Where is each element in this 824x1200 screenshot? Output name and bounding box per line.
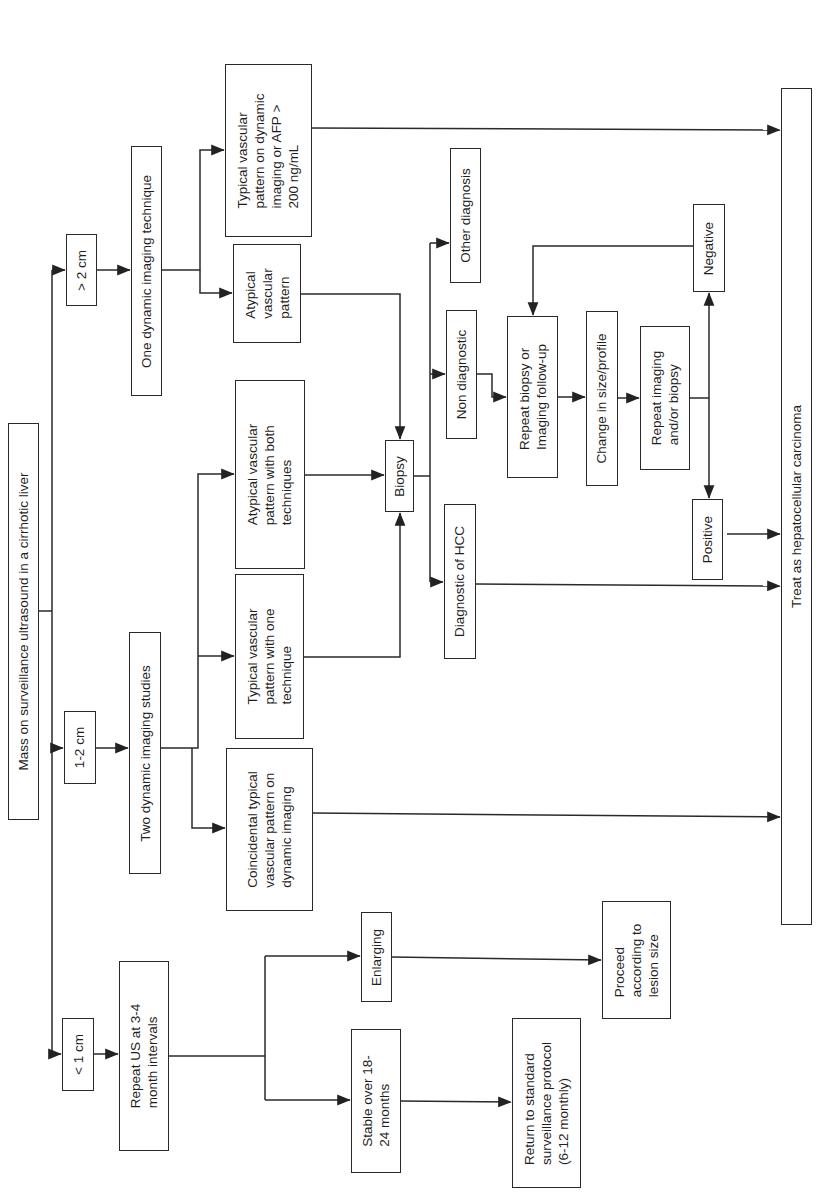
node-repeat-biopsy-or-imaging: Repeat biopsy or Imaging follow-up bbox=[507, 316, 558, 478]
node-coincidental-typical: Coincidental typical vascular pattern on… bbox=[226, 748, 313, 911]
node-label: 1-2 cm bbox=[72, 727, 89, 768]
node-diagnostic-of-hcc: Diagnostic of HCC bbox=[444, 504, 476, 659]
node-label: Enlarging bbox=[368, 928, 385, 985]
node-size-gt-2cm: > 2 cm bbox=[66, 234, 97, 306]
node-other-diagnosis: Other diagnosis bbox=[450, 148, 481, 283]
node-negative: Negative bbox=[693, 204, 725, 292]
node-size-lt-1cm: < 1 cm bbox=[62, 1018, 94, 1091]
node-label: Biopsy bbox=[391, 456, 408, 497]
node-label: Atypical vascular pattern bbox=[242, 268, 293, 318]
node-typical-one-technique: Typical vascular pattern with one techni… bbox=[235, 574, 304, 739]
node-label: Repeat US at 3-4 month intervals bbox=[127, 1004, 161, 1108]
node-label: Diagnostic of HCC bbox=[452, 526, 469, 637]
node-atypical-vascular-pattern: Atypical vascular pattern bbox=[233, 244, 301, 343]
node-root-mass: Mass on surveillance ultrasound in a cir… bbox=[8, 423, 39, 820]
node-label: Treat as hepatocellular carcinoma bbox=[788, 405, 805, 608]
node-label: < 1 cm bbox=[70, 1034, 87, 1075]
node-label: Typical vascular pattern with one techni… bbox=[244, 608, 295, 704]
node-label: Proceed according to lesion size bbox=[611, 923, 662, 997]
node-two-dynamic-imaging: Two dynamic imaging studies bbox=[129, 632, 161, 874]
node-label: Return to standard surveillance protocol… bbox=[521, 1041, 572, 1164]
node-positive: Positive bbox=[692, 499, 723, 580]
node-label: Repeat biopsy or Imaging follow-up bbox=[516, 344, 550, 450]
node-label: Negative bbox=[701, 221, 718, 274]
node-label: Positive bbox=[699, 516, 716, 563]
node-label: Two dynamic imaging studies bbox=[137, 665, 154, 841]
node-return-standard-surveillance: Return to standard surveillance protocol… bbox=[512, 1018, 581, 1188]
node-label: Repeat imaging and/or biopsy bbox=[648, 351, 682, 446]
node-label: Other diagnosis bbox=[457, 168, 474, 263]
node-biopsy: Biopsy bbox=[385, 440, 414, 512]
node-enlarging: Enlarging bbox=[361, 912, 392, 1002]
node-label: One dynamic imaging technique bbox=[138, 175, 155, 368]
node-non-diagnostic: Non diagnostic bbox=[446, 310, 477, 439]
node-label: Change in size/profile bbox=[594, 334, 611, 464]
node-proceed-by-size: Proceed according to lesion size bbox=[602, 901, 671, 1019]
node-label: > 2 cm bbox=[73, 250, 90, 291]
node-repeat-imaging-biopsy: Repeat imaging and/or biopsy bbox=[640, 326, 690, 470]
node-typical-pattern-or-afp: Typical vascular pattern on dynamic imag… bbox=[225, 64, 312, 237]
node-label: Coincidental typical vascular pattern on… bbox=[244, 771, 295, 887]
node-label: Typical vascular pattern on dynamic imag… bbox=[235, 93, 303, 208]
node-stable: Stable over 18- 24 months bbox=[351, 1029, 401, 1173]
flowchart-canvas: Mass on surveillance ultrasound in a cir… bbox=[0, 0, 824, 1200]
node-atypical-both-techniques: Atypical vascular pattern with both tech… bbox=[235, 380, 305, 569]
node-label: Non diagnostic bbox=[453, 330, 470, 419]
node-label: Mass on surveillance ultrasound in a cir… bbox=[15, 473, 32, 771]
node-one-dynamic-imaging: One dynamic imaging technique bbox=[131, 146, 162, 396]
node-treat-hcc: Treat as hepatocellular carcinoma bbox=[781, 88, 812, 925]
node-repeat-us: Repeat US at 3-4 month intervals bbox=[119, 961, 169, 1151]
node-size-1-2cm: 1-2 cm bbox=[64, 711, 96, 784]
node-label: Atypical vascular pattern with both tech… bbox=[245, 424, 296, 525]
node-label: Stable over 18- 24 months bbox=[359, 1055, 393, 1147]
node-change-in-size: Change in size/profile bbox=[586, 311, 618, 486]
